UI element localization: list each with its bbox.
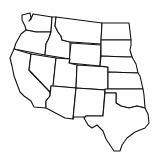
state-colorado	[76, 65, 108, 90]
state-montana	[55, 17, 102, 44]
state-wyoming	[69, 43, 101, 66]
state-arizona	[46, 86, 76, 119]
state-north-dakota	[101, 23, 131, 40]
state-washington	[22, 13, 52, 32]
western-us-map	[0, 0, 161, 160]
state-kansas	[108, 72, 143, 89]
state-south-dakota	[101, 40, 132, 57]
state-new-mexico	[73, 88, 105, 119]
